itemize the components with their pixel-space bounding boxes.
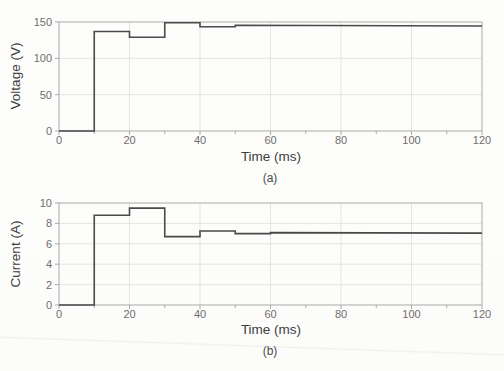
x-tick-label: 20 — [123, 134, 135, 146]
x-tick-label: 80 — [335, 134, 347, 146]
voltage-axis-title: Voltage (V) — [8, 43, 23, 110]
charts-canvas: 0204060801001200501001500204060801001200… — [0, 0, 504, 371]
y-tick-label: 50 — [40, 89, 52, 101]
y-tick-label: 0 — [46, 125, 52, 137]
x-tick-label: 0 — [56, 308, 62, 320]
x-tick-label: 60 — [264, 134, 276, 146]
x-tick-label: 100 — [402, 308, 420, 320]
y-tick-label: 10 — [40, 197, 52, 209]
two-panel-step-chart-figure: 0204060801001200501001500204060801001200… — [0, 0, 504, 371]
subfigure-caption-b: (b) — [263, 344, 278, 358]
y-tick-label: 4 — [46, 258, 52, 270]
x-tick-label: 40 — [194, 308, 206, 320]
subfigure-caption-a: (a) — [263, 171, 278, 185]
x-tick-label: 120 — [473, 308, 491, 320]
y-tick-label: 6 — [46, 238, 52, 250]
x-tick-label: 100 — [402, 134, 420, 146]
time-axis-title-b: Time (ms) — [241, 322, 301, 337]
y-tick-label: 0 — [46, 299, 52, 311]
x-tick-label: 40 — [194, 134, 206, 146]
y-tick-label: 100 — [34, 52, 52, 64]
y-tick-label: 8 — [46, 217, 52, 229]
x-tick-label: 20 — [123, 308, 135, 320]
x-tick-label: 0 — [56, 134, 62, 146]
y-tick-label: 150 — [34, 16, 52, 28]
x-tick-label: 60 — [264, 308, 276, 320]
time-axis-title-a: Time (ms) — [241, 149, 301, 164]
y-tick-label: 2 — [46, 279, 52, 291]
x-tick-label: 80 — [335, 308, 347, 320]
current-axis-title: Current (A) — [8, 221, 23, 288]
x-tick-label: 120 — [473, 134, 491, 146]
